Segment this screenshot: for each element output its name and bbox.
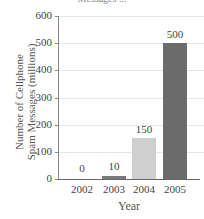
x-tick-label: 2005	[158, 183, 192, 195]
y-tick-label: 300	[20, 91, 52, 103]
y-tick-label: 0	[20, 172, 52, 184]
value-label-2002: 0	[65, 162, 99, 174]
value-label-2003: 10	[97, 160, 131, 172]
bar-2005	[163, 43, 187, 179]
value-label-2004: 150	[127, 123, 161, 135]
y-tick-label: 500	[20, 36, 52, 48]
x-tick-label: 2004	[127, 183, 161, 195]
x-tick-label: 2002	[65, 183, 99, 195]
y-axis	[58, 16, 59, 180]
chart-title: Messages ...	[0, 0, 204, 4]
y-tick-label: 400	[20, 63, 52, 75]
x-tick-label: 2003	[97, 183, 131, 195]
gridline-600	[58, 16, 204, 17]
x-axis	[58, 179, 200, 180]
y-tick-label: 600	[20, 9, 52, 21]
y-tick-label: 200	[20, 118, 52, 130]
y-tick-label: 100	[20, 145, 52, 157]
bar-2004	[132, 138, 156, 179]
x-axis-label: Year	[58, 199, 200, 214]
value-label-2005: 500	[158, 28, 192, 40]
